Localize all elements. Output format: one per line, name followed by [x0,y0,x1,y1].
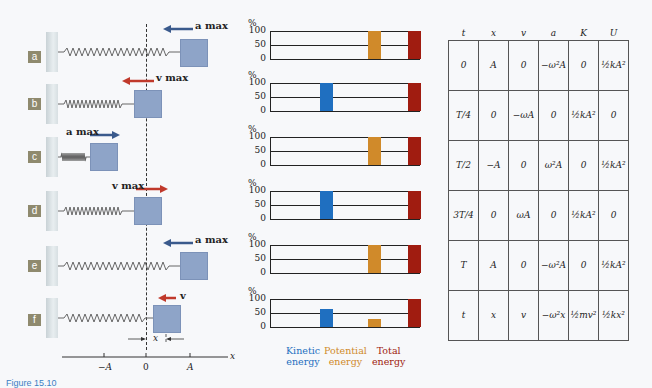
arrow-left-icon [158,293,176,303]
gridline [270,219,420,220]
y-tick: 50 [246,307,266,317]
y-tick: 50 [246,145,266,155]
table-cell: A [479,40,509,90]
gridline [270,273,420,274]
table-cell: ωA [509,190,539,240]
table-row: 3T/40ωA0½kA²0 [449,190,629,240]
column-header: x [479,26,509,40]
table-cell: 0 [599,190,629,240]
bar-kinetic [320,191,333,219]
table-cell: 0 [539,90,569,140]
table-row: T/2−A0ω²A0½kA² [449,140,629,190]
bar-total [408,31,421,59]
table-row: 0A0−ω²A0½kA² [449,40,629,90]
gridline [270,31,420,32]
column-header: U [599,26,629,40]
gridline [270,97,420,98]
wall-c [46,137,58,177]
tick-minus-a: −A [98,362,112,372]
gridline [270,45,420,46]
wall-b [46,84,58,124]
table-cell: t [449,290,479,340]
bar-potential [368,137,381,165]
gridline [270,191,420,192]
spring-d [58,205,134,217]
column-header: a [539,26,569,40]
figure-caption: Figure 15.10 [6,378,57,388]
tick-a: A [187,362,194,372]
table-cell: 0 [479,190,509,240]
spring-b [58,98,134,110]
y-tick: 50 [246,91,266,101]
table-cell: ½kA² [569,90,599,140]
motion-table: txvaKU 0A0−ω²A0½kA²T/40−ωA0½kA²0T/2−A0ω²… [448,26,629,341]
y-tick: 100 [246,293,266,303]
tick-zero: 0 [143,362,149,372]
y-tick: 100 [246,185,266,195]
table-cell: −ωA [509,90,539,140]
column-header: t [449,26,479,40]
wall-a [46,32,58,72]
y-tick: 50 [246,253,266,263]
energy-chart-b: %100500 [248,78,408,120]
vector-label-d: v max [112,180,144,191]
bar-potential [368,245,381,273]
energy-chart-a: %100500 [248,26,408,68]
y-tick: 0 [246,159,266,169]
energy-chart-c: %100500 [248,132,408,174]
vector-label-c: a max [66,126,99,137]
energy-chart-e: %100500 [248,240,408,282]
mass-block-a [180,39,208,67]
table-cell: ½kA² [569,190,599,240]
table-cell: ½kA² [599,240,629,290]
gridline [270,111,420,112]
gridline [270,259,420,260]
table-row: txv−ω²x½mv²½kx² [449,290,629,340]
table-cell: T/2 [449,140,479,190]
table-cell: 0 [569,40,599,90]
table-cell: 0 [509,140,539,190]
y-tick: 0 [246,213,266,223]
energy-chart-d: %100500 [248,186,408,228]
y-tick: 100 [246,131,266,141]
table-cell: ½mv² [569,290,599,340]
table-header-row: txvaKU [449,26,629,40]
legend-kinetic: Kineticenergy [286,345,320,367]
bar-potential [368,319,381,327]
mass-block-b [134,90,162,118]
table-cell: ω²A [539,140,569,190]
panel-label-b: b [28,98,41,110]
table-cell: 0 [599,90,629,140]
bar-total [408,299,421,327]
gridline [270,59,420,60]
table-cell: 0 [509,240,539,290]
table-row: T/40−ωA0½kA²0 [449,90,629,140]
bar-potential [368,31,381,59]
table-row: TA0−ω²A0½kA² [449,240,629,290]
mass-block-f [153,305,181,333]
spring-a [58,46,180,58]
vector-label-b: v max [156,72,188,83]
wall-f [46,298,58,338]
panel-label-f: f [28,314,41,326]
bar-total [408,245,421,273]
table-cell: 0 [539,190,569,240]
arrow-left-icon [122,76,154,86]
arrow-left-icon [163,24,193,34]
bar-kinetic [320,309,333,327]
table-cell: 0 [449,40,479,90]
bar-total [408,137,421,165]
spring-f [58,312,154,324]
y-tick: 100 [246,25,266,35]
table-cell: −ω²x [539,290,569,340]
table-cell: ½kA² [599,140,629,190]
table-cell: T [449,240,479,290]
y-tick: 0 [246,105,266,115]
y-tick: 50 [246,39,266,49]
arrow-left-icon [163,238,193,248]
x-axis-label: x [230,351,235,361]
spring-c [58,151,90,163]
wall-e [46,246,58,286]
table-cell: −A [479,140,509,190]
gridline [270,245,420,246]
